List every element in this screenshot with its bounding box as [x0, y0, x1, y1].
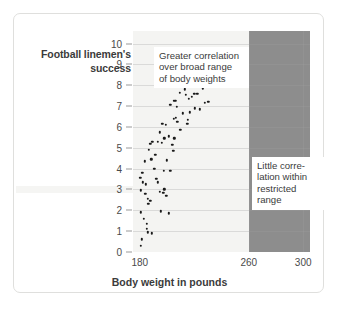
- data-point: [140, 211, 142, 213]
- data-point: [159, 131, 161, 133]
- data-point: [155, 178, 157, 180]
- restricted-range-note-line-0: Little corre-: [257, 160, 319, 171]
- data-point: [146, 228, 148, 230]
- y-tick-label-3: 3: [96, 184, 122, 195]
- data-point: [176, 120, 178, 122]
- x-axis-title: Body weight in pounds: [14, 276, 325, 288]
- y-tick-mark: [126, 43, 132, 44]
- data-point: [168, 212, 170, 214]
- data-point: [144, 192, 146, 194]
- y-tick-mark: [126, 210, 132, 211]
- annotation-restricted-range: Little corre-lation withinrestrictedrang…: [252, 157, 324, 210]
- y-tick-label-8: 8: [96, 80, 122, 91]
- broad-range-note-line-1: over broad range: [159, 61, 244, 72]
- y-tick-mark: [126, 252, 132, 253]
- data-point: [182, 112, 184, 114]
- gridline-y: [133, 148, 310, 149]
- data-point: [185, 93, 187, 95]
- data-point: [169, 169, 171, 171]
- data-point: [157, 140, 159, 142]
- data-point: [175, 116, 177, 118]
- data-point: [187, 118, 189, 120]
- gridline-y: [133, 231, 310, 232]
- data-point: [166, 159, 168, 161]
- gridline-y: [133, 106, 310, 107]
- y-tick-label-4: 4: [96, 163, 122, 174]
- x-tick-label-300: 300: [295, 257, 312, 268]
- data-point: [139, 177, 141, 179]
- data-point: [147, 203, 149, 205]
- data-point: [199, 108, 201, 110]
- data-point: [165, 195, 167, 197]
- data-point: [142, 217, 144, 219]
- restricted-range-note-line-1: lation within: [257, 171, 319, 182]
- data-point: [150, 232, 152, 234]
- y-tick-mark: [126, 231, 132, 232]
- data-point: [150, 158, 152, 160]
- data-point: [186, 123, 188, 125]
- y-tick-label-1: 1: [96, 226, 122, 237]
- restricted-range-note-line-2: restricted: [257, 183, 319, 194]
- data-point: [139, 245, 141, 247]
- data-point: [171, 143, 173, 145]
- data-point: [163, 137, 165, 139]
- annotation-broad-range: Greater correlationover broad rangeof bo…: [154, 47, 249, 88]
- broad-range-note-line-0: Greater correlation: [159, 50, 244, 61]
- y-tick-mark: [126, 106, 132, 107]
- data-point: [144, 160, 146, 162]
- y-tick-mark: [126, 168, 132, 169]
- data-point: [161, 123, 163, 125]
- data-point: [162, 191, 164, 193]
- y-tick-label-10: 10: [96, 38, 122, 49]
- x-tick-label-260: 260: [240, 257, 257, 268]
- data-point: [146, 223, 148, 225]
- y-tick-mark: [126, 147, 132, 148]
- data-point: [188, 111, 190, 113]
- data-point: [194, 107, 196, 109]
- y-tick-label-9: 9: [96, 59, 122, 70]
- data-point: [184, 88, 186, 90]
- data-point: [141, 172, 143, 174]
- data-point: [145, 183, 147, 185]
- y-tick-mark: [126, 189, 132, 190]
- gridline-x: [303, 31, 304, 252]
- data-point: [151, 140, 153, 142]
- y-tick-label-5: 5: [96, 142, 122, 153]
- data-point: [173, 137, 175, 139]
- data-point: [179, 91, 181, 93]
- y-tick-label-7: 7: [96, 101, 122, 112]
- data-point: [141, 238, 143, 240]
- gridline-y: [133, 44, 310, 45]
- data-point: [167, 135, 169, 137]
- data-point: [191, 95, 193, 97]
- data-point: [204, 102, 206, 104]
- data-point: [174, 100, 176, 102]
- data-point: [162, 169, 164, 171]
- data-point: [161, 141, 163, 143]
- data-point: [147, 149, 149, 151]
- data-point: [165, 124, 167, 126]
- data-point: [196, 92, 198, 94]
- data-point: [179, 129, 181, 131]
- data-point: [149, 142, 151, 144]
- restricted-range-note-line-3: range: [257, 194, 319, 205]
- y-tick-mark: [126, 64, 132, 65]
- broad-range-note-line-2: of body weights: [159, 73, 244, 84]
- data-point: [187, 98, 189, 100]
- y-tick-mark: [126, 85, 132, 86]
- data-point: [154, 154, 156, 156]
- y-tick-label-0: 0: [96, 247, 122, 258]
- data-point: [156, 181, 158, 183]
- y-tick-label-2: 2: [96, 205, 122, 216]
- data-point: [172, 150, 174, 152]
- x-tick-label-180: 180: [131, 257, 148, 268]
- data-point: [158, 190, 160, 192]
- gridline-y: [133, 127, 310, 128]
- data-point: [149, 200, 151, 202]
- y-tick-mark: [126, 126, 132, 127]
- figure-card: Football linemen'ssuccess Greater correl…: [13, 13, 324, 293]
- data-point: [207, 101, 209, 103]
- y-tick-label-6: 6: [96, 121, 122, 132]
